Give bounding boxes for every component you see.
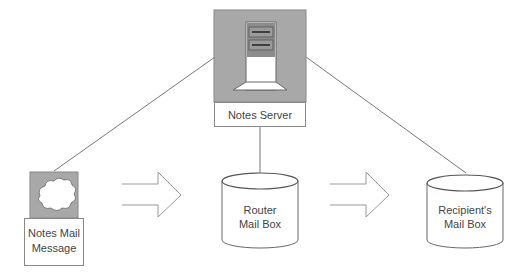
- edge-server-recipient: [306, 57, 466, 173]
- arrow-message-to-router: [122, 172, 181, 217]
- recipient-label-line1: Recipient's: [427, 203, 503, 217]
- edge-message-server: [54, 57, 215, 171]
- message-label-line2: Message: [24, 241, 84, 255]
- cloud-message-icon: [30, 172, 78, 218]
- recipient-label-line2: Mail Box: [427, 217, 503, 231]
- message-label-line1: Notes Mail: [24, 226, 84, 240]
- arrow-router-to-recipient: [330, 172, 389, 217]
- router-label-line1: Router: [222, 203, 298, 217]
- server-tower-icon: [214, 10, 306, 102]
- router-label-line2: Mail Box: [222, 217, 298, 231]
- server-label: Notes Server: [214, 108, 306, 122]
